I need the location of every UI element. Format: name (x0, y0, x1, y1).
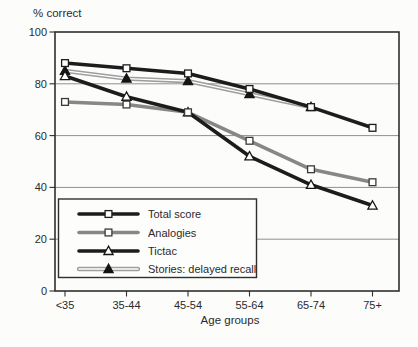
legend-label: Total score (148, 208, 201, 220)
marker-open-square (123, 101, 130, 108)
marker-open-square (246, 86, 253, 93)
marker-open-square (369, 124, 376, 131)
marker-open-square (308, 166, 315, 173)
x-tick-label: 75+ (363, 299, 382, 311)
x-axis-title: Age groups (201, 314, 260, 326)
y-tick-label: 100 (29, 26, 47, 38)
x-axis: <3535-4445-5455-6465-7475+ (56, 291, 382, 311)
x-tick-label: 35-44 (112, 299, 140, 311)
series-line-0 (65, 63, 373, 128)
legend-label: Analogies (148, 227, 197, 239)
figure-page: % correct Age groups 020406080100<3535-4… (0, 0, 418, 347)
legend-marker-open-square (105, 229, 112, 236)
line-chart: % correct Age groups 020406080100<3535-4… (0, 0, 418, 347)
legend-label: Tictac (148, 245, 177, 257)
x-tick-label: 55-64 (235, 299, 263, 311)
marker-open-square (246, 137, 253, 144)
legend: Total scoreAnalogiesTictacStories: delay… (59, 199, 257, 278)
y-axis: 020406080100 (29, 26, 55, 297)
marker-open-square (369, 179, 376, 186)
x-tick-label: <35 (56, 299, 75, 311)
series-line-2 (65, 76, 373, 206)
legend-marker-open-square (105, 211, 112, 218)
y-tick-label: 20 (35, 233, 47, 245)
x-tick-label: 45-54 (174, 299, 202, 311)
x-tick-label: 65-74 (297, 299, 325, 311)
marker-open-square (62, 60, 69, 67)
y-tick-label: 60 (35, 130, 47, 142)
y-tick-label: 40 (35, 181, 47, 193)
y-tick-label: 0 (41, 285, 47, 297)
marker-open-square (308, 104, 315, 111)
marker-open-square (185, 109, 192, 116)
marker-open-square (185, 70, 192, 77)
marker-open-square (123, 65, 130, 72)
series-lines (65, 63, 373, 205)
y-axis-units-label: % correct (33, 7, 82, 19)
marker-open-square (62, 99, 69, 106)
y-tick-label: 80 (35, 78, 47, 90)
legend-label: Stories: delayed recall (148, 263, 256, 275)
